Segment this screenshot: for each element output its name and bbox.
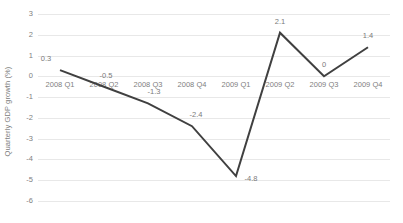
y-axis-tick-label: 2 bbox=[29, 31, 33, 39]
y-axis-tick-label: -6 bbox=[26, 197, 33, 205]
data-point-label: -2.4 bbox=[190, 111, 203, 119]
data-point-label: -4.8 bbox=[245, 175, 258, 183]
y-axis-tick-label: 3 bbox=[29, 10, 33, 18]
gridline bbox=[38, 201, 390, 202]
series-line bbox=[38, 14, 390, 201]
data-point-label: 2.1 bbox=[275, 18, 285, 26]
gdp-growth-line-chart: Quarterly GDP growth (%) 3210-1-2-3-4-5-… bbox=[0, 0, 403, 223]
data-point-label: 0 bbox=[322, 62, 326, 70]
plot-area: 3210-1-2-3-4-5-6 2008 Q12008 Q22008 Q320… bbox=[38, 14, 390, 201]
data-point-label: 1.4 bbox=[363, 32, 373, 40]
y-axis-tick-label: -4 bbox=[26, 156, 33, 164]
data-point-label: -0.5 bbox=[100, 72, 113, 80]
y-axis-tick-label: -2 bbox=[26, 114, 33, 122]
y-axis-tick-label: 1 bbox=[29, 52, 33, 60]
y-axis-tick-label: -1 bbox=[26, 93, 33, 101]
y-axis-title: Quarterly GDP growth (%) bbox=[0, 0, 14, 223]
data-point-label: -1.3 bbox=[148, 89, 161, 97]
data-point-label: 0.3 bbox=[41, 55, 51, 63]
y-axis-tick-label: -3 bbox=[26, 135, 33, 143]
y-axis-tick-label: -5 bbox=[26, 176, 33, 184]
y-axis-tick-label: 0 bbox=[29, 73, 33, 81]
